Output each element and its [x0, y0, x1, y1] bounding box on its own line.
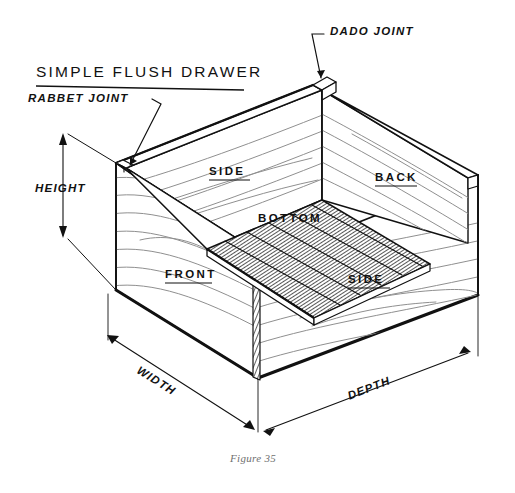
height-dimension-line: [59, 133, 116, 290]
part-label-side-left: SIDE: [209, 165, 245, 177]
callout-dado-joint: DADO JOINT: [330, 25, 414, 37]
title-underline: [36, 86, 244, 90]
callout-rabbet-joint: RABBET JOINT: [28, 92, 129, 104]
figure-caption: Figure 35: [230, 452, 276, 464]
part-label-bottom: BOTTOM: [258, 212, 322, 224]
drawer-rim-side-right: [468, 175, 478, 189]
figure-title: SIMPLE FLUSH DRAWER: [36, 63, 262, 81]
dimension-label-height: HEIGHT: [35, 182, 86, 194]
figure-illustration: SIMPLE FLUSH DRAWER DADO JOINT RABBET JO…: [0, 0, 515, 493]
part-label-front: FRONT: [165, 268, 217, 280]
dado-leader-line: [312, 34, 325, 78]
part-label-back: BACK: [375, 171, 418, 183]
part-label-side-right: SIDE: [348, 273, 384, 285]
